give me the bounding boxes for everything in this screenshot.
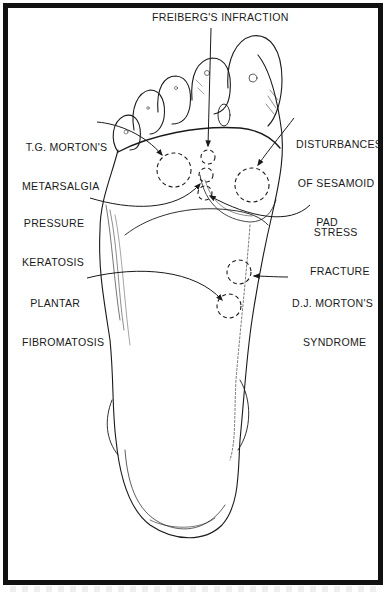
lesion-freiberg-1 — [201, 150, 215, 164]
lesion-freiberg-2 — [199, 168, 213, 182]
toe-2 — [192, 58, 231, 114]
toe-4 — [133, 90, 165, 134]
lesion-sesamoid — [235, 168, 269, 202]
label-line: DISTURBANCES — [296, 138, 382, 151]
label-plantar-fibromatosis: PLANTAR FIBROMATOSIS — [22, 271, 104, 362]
label-pressure-keratosis: PRESSURE KERATOSIS — [22, 191, 84, 282]
arrow-stress — [210, 196, 310, 217]
label-freibergs-infraction: FREIBERG'S INFRACTION — [152, 11, 289, 24]
toe-1 — [228, 36, 282, 126]
label-line: D.J. MORTON'S — [292, 297, 373, 310]
label-line: OF SESAMOID — [298, 177, 382, 190]
lesion-freiberg-3 — [198, 186, 212, 200]
label-line: SYNDROME — [303, 336, 373, 349]
label-line: STRESS — [314, 226, 370, 239]
arrow-sesamoid — [258, 118, 294, 165]
label-line: PLANTAR — [30, 297, 104, 310]
lesion-dj-morton — [227, 260, 251, 284]
cropped-caption — [10, 586, 380, 592]
lesion-tg-morton — [157, 153, 191, 187]
label-line: FIBROMATOSIS — [22, 336, 104, 349]
label-line: PRESSURE — [24, 217, 84, 230]
lesion-fibromatosis — [217, 294, 241, 318]
label-dj-morton: D.J. MORTON'S SYNDROME — [292, 271, 373, 362]
arrow-fibromatosis — [87, 271, 222, 300]
label-line: T.G. MORTON'S — [26, 141, 108, 154]
label-line: KERATOSIS — [22, 256, 84, 269]
